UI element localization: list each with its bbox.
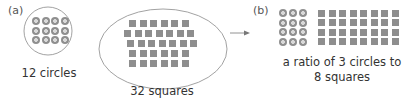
square-shape xyxy=(350,38,357,45)
circle-shape xyxy=(42,17,50,25)
square-shape xyxy=(329,19,336,26)
square-shape xyxy=(182,50,189,57)
circle-shape xyxy=(32,36,40,44)
square-shape xyxy=(392,29,399,36)
square-shape xyxy=(187,30,194,37)
circle-shape xyxy=(279,38,287,46)
square-shape xyxy=(371,19,378,26)
circle-shape xyxy=(299,38,307,46)
part-a-label: (a) xyxy=(8,4,23,17)
circle-shape xyxy=(289,38,297,46)
square-shape xyxy=(381,10,388,17)
square-shape xyxy=(392,38,399,45)
square-shape xyxy=(171,50,178,57)
square-shape xyxy=(161,60,168,67)
square-shape xyxy=(190,40,197,47)
square-shape xyxy=(318,10,325,17)
square-shape xyxy=(318,38,325,45)
square-shape xyxy=(329,10,336,17)
circle-shape xyxy=(51,36,59,44)
circle-shape xyxy=(51,17,59,25)
circle-shape xyxy=(289,19,297,27)
square-shape xyxy=(339,10,346,17)
square-shape xyxy=(392,10,399,17)
square-shape xyxy=(371,10,378,17)
square-shape xyxy=(161,50,168,57)
square-shape xyxy=(145,30,152,37)
square-shape xyxy=(171,20,178,27)
circle-shape xyxy=(289,9,297,17)
part-b-label: (b) xyxy=(253,4,269,17)
square-shape xyxy=(339,38,346,45)
circle-shape xyxy=(299,9,307,17)
square-shape xyxy=(360,38,367,45)
square-shape xyxy=(148,40,155,47)
square-shape xyxy=(350,19,357,26)
arrow-right-icon xyxy=(230,31,250,36)
circle-shape xyxy=(32,17,40,25)
ratio-caption-line2: 8 squares xyxy=(272,70,412,84)
circle-shape xyxy=(61,36,69,44)
square-shape xyxy=(138,40,145,47)
circle-shape xyxy=(61,27,69,35)
square-shape xyxy=(392,19,399,26)
square-shape xyxy=(166,30,173,37)
circle-shape xyxy=(279,19,287,27)
square-shape xyxy=(150,50,157,57)
square-shape xyxy=(140,50,147,57)
square-shape xyxy=(318,29,325,36)
square-shape xyxy=(129,50,136,57)
circle-shape xyxy=(299,28,307,36)
circle-shape xyxy=(61,17,69,25)
square-shape xyxy=(360,10,367,17)
square-shape xyxy=(360,29,367,36)
square-shape xyxy=(127,40,134,47)
square-shape xyxy=(150,60,157,67)
square-shape xyxy=(339,29,346,36)
square-shape xyxy=(171,60,178,67)
square-shape xyxy=(318,19,325,26)
square-shape xyxy=(371,38,378,45)
square-shape xyxy=(129,60,136,67)
circle-shape xyxy=(299,19,307,27)
square-shape xyxy=(140,60,147,67)
square-shape xyxy=(129,20,136,27)
circle-shape xyxy=(42,27,50,35)
square-shape xyxy=(360,19,367,26)
square-shape xyxy=(381,38,388,45)
square-shape xyxy=(150,20,157,27)
square-shape xyxy=(182,60,189,67)
square-shape xyxy=(350,29,357,36)
circle-shape xyxy=(279,9,287,17)
circle-shape xyxy=(32,27,40,35)
square-shape xyxy=(169,40,176,47)
square-shape xyxy=(177,30,184,37)
square-shape xyxy=(124,30,131,37)
square-shape xyxy=(371,29,378,36)
square-shape xyxy=(329,29,336,36)
square-shape xyxy=(135,30,142,37)
circle-shape xyxy=(42,36,50,44)
square-shape xyxy=(329,38,336,45)
squares-caption: 32 squares xyxy=(124,84,200,98)
square-shape xyxy=(381,29,388,36)
square-shape xyxy=(182,20,189,27)
circles-caption: 12 circles xyxy=(14,66,84,80)
square-shape xyxy=(161,20,168,27)
square-shape xyxy=(350,10,357,17)
square-shape xyxy=(381,19,388,26)
ratio-caption-line1: a ratio of 3 circles to xyxy=(272,55,412,69)
circle-shape xyxy=(289,28,297,36)
circle-shape xyxy=(279,28,287,36)
square-shape xyxy=(159,40,166,47)
circle-shape xyxy=(51,27,59,35)
square-shape xyxy=(140,20,147,27)
square-shape xyxy=(156,30,163,37)
square-shape xyxy=(339,19,346,26)
square-shape xyxy=(180,40,187,47)
